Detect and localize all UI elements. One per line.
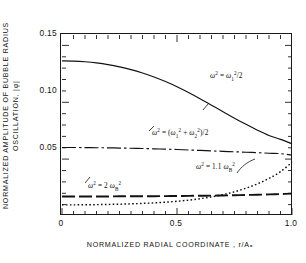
annotation-curve-1p1-omegaB: ω2 = 1.1 ωB2 [196,161,235,173]
y-tick-label: 0.05 [39,142,57,152]
curve-2-omegaB [62,194,292,197]
y-tick-label: 0.15 [39,28,57,38]
leader-curve3 [237,159,255,173]
y-axis-tick-labels: 0.15 0.10 0.05 [22,33,57,215]
x-axis-title: NORMALIZED RADIAL COORDINATE , r/Aₐ [34,241,306,249]
figure-root: NORMALIZED AMPLITUDE OF BUBBLE RADIUS OS… [0,0,306,263]
y-axis-title-line2: OSCILLATION, |φ| [12,0,20,232]
y-tick-label: 0.10 [39,85,57,95]
x-axis-tick-labels: 0 0.5 1.0 [60,218,292,232]
annotation-curve-omega-mean: ω2 = (ω12 + ω22)/2 [152,127,208,139]
y-axis-title-line1: NORMALIZED AMPLITUDE OF BUBBLE RADIUS [2,0,10,232]
x-tick-label: 0.5 [170,218,183,228]
annotation-curve-2-omegaB: ω2 = 2 ωB2 [88,180,121,192]
leader-curve1 [203,104,208,110]
curve-omega-mean [62,147,292,155]
x-tick-label: 0 [59,218,64,228]
annotation-curve-omega1-half: ω2 = ω12/2 [210,70,243,82]
x-tick-label: 1.0 [285,218,298,228]
